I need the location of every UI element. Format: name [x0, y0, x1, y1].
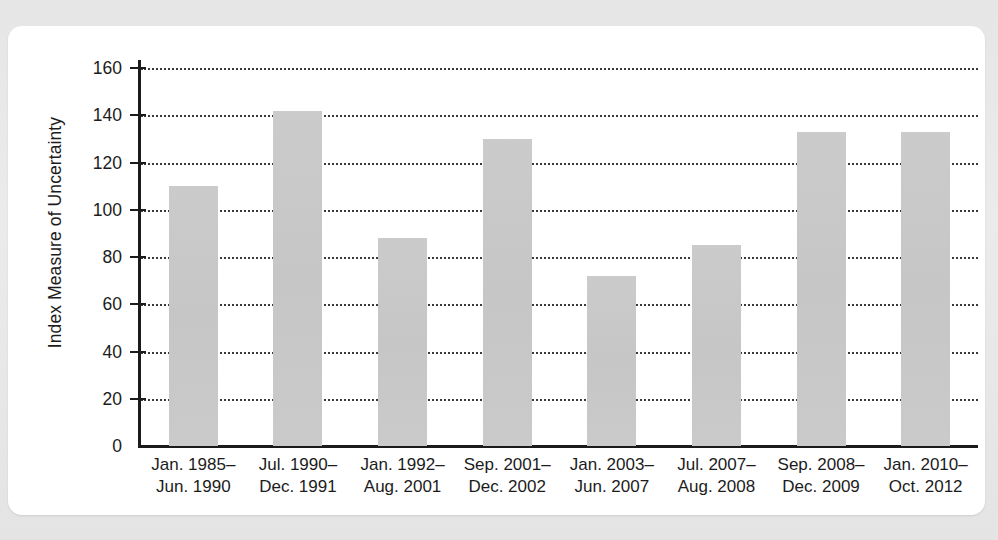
y-axis-tick	[130, 303, 146, 305]
bar-chart: Index Measure of Uncertainty 02040608010…	[8, 26, 985, 515]
gridline	[141, 115, 978, 117]
y-axis-tick-label: 20	[64, 388, 122, 409]
bar	[587, 276, 636, 446]
y-axis-tick	[130, 398, 146, 400]
x-axis-line	[138, 445, 978, 448]
page-background: Index Measure of Uncertainty 02040608010…	[0, 0, 998, 540]
x-axis-tick-label-line: Jan. 2010–	[861, 454, 991, 476]
gridline	[141, 163, 978, 165]
y-axis-title: Index Measure of Uncertainty	[45, 83, 66, 383]
chart-card: Index Measure of Uncertainty 02040608010…	[8, 26, 985, 515]
y-axis-tick-label: 120	[64, 152, 122, 173]
y-axis-tick-label: 60	[64, 294, 122, 315]
y-axis-tick-label: 160	[64, 58, 122, 79]
y-axis-tick-label: 80	[64, 247, 122, 268]
gridline	[141, 68, 978, 70]
gridline	[141, 210, 978, 212]
y-axis-tick	[130, 67, 146, 69]
x-axis-tick-label: Jan. 2010–Oct. 2012	[861, 454, 991, 498]
y-axis-tick-label: 100	[64, 199, 122, 220]
gridline	[141, 257, 978, 259]
y-axis-tick	[130, 209, 146, 211]
bar	[483, 139, 532, 446]
y-axis-line	[138, 60, 141, 448]
y-axis-tick	[130, 114, 146, 116]
bar	[797, 132, 846, 446]
bar	[273, 111, 322, 446]
gridline	[141, 399, 978, 401]
bar	[901, 132, 950, 446]
y-axis-tick-label: 0	[64, 436, 122, 457]
gridline	[141, 304, 978, 306]
gridline	[141, 352, 978, 354]
y-axis-tick	[130, 351, 146, 353]
y-axis-tick	[130, 162, 146, 164]
y-axis-tick-label: 140	[64, 105, 122, 126]
y-axis-tick	[130, 256, 146, 258]
bar	[169, 186, 218, 446]
y-axis-tick-label: 40	[64, 341, 122, 362]
bar	[692, 245, 741, 446]
bar	[378, 238, 427, 446]
x-axis-tick-label-line: Oct. 2012	[861, 476, 991, 498]
